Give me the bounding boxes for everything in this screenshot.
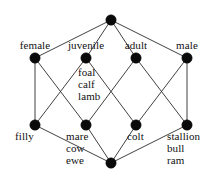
node-label-adult: adult [117,39,155,52]
lattice-node-adult [131,53,141,63]
node-label-filly: filly [15,130,45,143]
lattice-node-juvenile [81,53,91,63]
lattice-node-male [182,53,192,63]
lattice-node-filly [30,120,40,130]
node-label-cow: cow [66,142,100,155]
node-label-foal: foal [78,66,112,79]
lattice-node-top [106,15,116,25]
node-label-colt: colt [127,130,157,143]
node-label-calf: calf [78,78,112,91]
node-label-male: male [169,39,205,52]
node-label-bull: bull [167,142,217,155]
node-label-juvenile: juvenile [62,39,110,52]
lattice-node-mare [81,120,91,130]
lattice-node-colt [131,120,141,130]
node-label-mare: mare [66,130,100,143]
node-label-ewe: ewe [66,154,100,167]
node-label-female: female [14,39,56,52]
node-label-lamb: lamb [78,90,112,103]
lattice-node-female [30,53,40,63]
lattice-node-stallion [182,120,192,130]
lattice-node-bottom [106,158,116,168]
node-label-stallion: stallion [167,130,217,143]
lattice-diagram: female juvenile adult male foal calf lam… [0,0,224,179]
node-label-ram: ram [167,154,217,167]
